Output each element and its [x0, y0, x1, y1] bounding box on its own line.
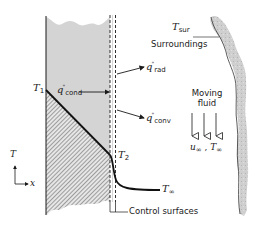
wall — [46, 16, 110, 215]
q-conv-arrow — [117, 110, 144, 118]
q-rad-label: q"rad — [146, 62, 166, 72]
surroundings-label: Surroundings — [151, 40, 207, 49]
t2-label: T2 — [118, 150, 129, 160]
heat-transfer-diagram — [0, 0, 272, 226]
moving-fluid-arrows — [192, 113, 216, 136]
axis-t-label: T — [10, 150, 16, 159]
axis-x-label: x — [30, 179, 35, 188]
t-sur-label: Tsur — [172, 22, 190, 32]
q-cond-label: q"cond — [57, 85, 82, 95]
free-stream-label: u∞ , T∞ — [190, 143, 222, 152]
t-inf-label: T∞ — [162, 184, 175, 194]
control-surfaces-label: Control surfaces — [129, 207, 198, 216]
coordinate-axes — [15, 166, 28, 184]
control-surfaces — [110, 15, 128, 212]
fluid-temperature-profile — [110, 155, 160, 190]
q-rad-arrow — [117, 67, 144, 74]
q-conv-label: q"conv — [146, 113, 171, 123]
t1-label: T1 — [33, 83, 44, 93]
moving-fluid-label: Moving fluid — [190, 89, 224, 107]
